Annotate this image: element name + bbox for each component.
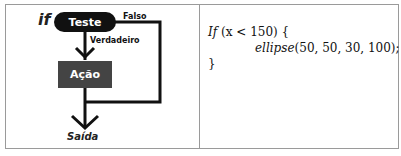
function-name: ellipse [255, 41, 295, 55]
code-line-1: If (x < 150) { [208, 24, 400, 40]
code-line-2: ellipse(50, 50, 30, 100); [208, 40, 400, 56]
false-label: Falso [123, 12, 146, 21]
function-args: (50, 50, 30, 100); [295, 41, 400, 55]
true-label: Verdadeiro [90, 36, 140, 45]
action-node: Ação [58, 61, 112, 88]
if-keyword-code: If [208, 25, 217, 39]
test-node-label: Teste [69, 16, 102, 29]
condition: (x < 150) { [217, 25, 289, 39]
test-node: Teste [54, 12, 116, 32]
exit-label: Saída [67, 131, 98, 142]
code-snippet: If (x < 150) { ellipse(50, 50, 30, 100);… [208, 24, 400, 72]
action-node-label: Ação [70, 68, 100, 81]
code-line-3: } [208, 56, 400, 72]
if-keyword: if [38, 10, 50, 29]
